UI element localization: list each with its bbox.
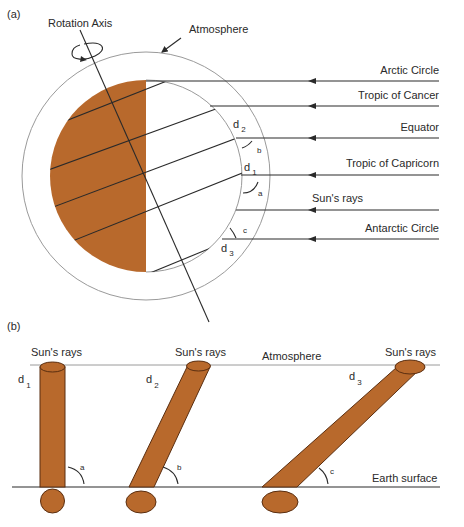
ray-label-suns-rays: Sun's rays: [312, 192, 364, 204]
ray-label-equator: Equator: [400, 121, 439, 133]
d2-label: d2: [233, 118, 246, 134]
beam-1-label: Sun's rays: [31, 346, 83, 358]
d3-label: d3: [221, 242, 234, 258]
beam-1-d: d1: [18, 373, 31, 390]
angle-b-label: b: [257, 146, 262, 155]
sun-angle-diagram: (a) Rotation Axis Atmosphere A: [0, 0, 464, 527]
angle-a-arc: [243, 182, 258, 193]
ray-label-tropic-of-capricorn: Tropic of Capricorn: [346, 157, 439, 169]
atmosphere-label: Atmosphere: [189, 23, 248, 35]
ray-label-tropic-of-cancer: Tropic of Cancer: [358, 89, 439, 101]
ray-label-arctic-circle: Arctic Circle: [380, 64, 439, 76]
angle-b-arc-b: [163, 467, 178, 484]
ray-label-antarctic-circle: Antarctic Circle: [365, 222, 439, 234]
earth-day-outline: [146, 80, 242, 272]
beam-3-d: d3: [349, 370, 362, 387]
angle-c-label-b: c: [330, 467, 334, 476]
angle-c-arc-b: [319, 468, 328, 484]
rotation-axis-label: Rotation Axis: [48, 17, 113, 29]
panel-a: (a) Rotation Axis Atmosphere A: [7, 8, 439, 322]
angle-c-label: c: [243, 226, 247, 235]
angle-a-label-b: a: [80, 463, 85, 472]
footprint-1: [41, 489, 65, 513]
earth-night-side: [40, 70, 146, 290]
panel-a-label: (a): [7, 8, 20, 20]
footprint-3: [262, 491, 298, 513]
beam-3: Sun's rays d3 c: [262, 346, 437, 513]
atmosphere-pointer-icon: [162, 38, 181, 52]
panel-b-label: (b): [7, 320, 20, 332]
beam-2-label: Sun's rays: [175, 346, 227, 358]
footprint-2: [126, 491, 156, 513]
angle-a-label: a: [258, 189, 263, 198]
angle-b-label-b: b: [177, 463, 182, 472]
beam-3-label: Sun's rays: [385, 346, 437, 358]
beam-2-d: d2: [146, 373, 159, 390]
angle-b-arc: [242, 141, 252, 148]
atmosphere-label-b: Atmosphere: [262, 350, 321, 362]
angle-c-arc: [230, 228, 236, 238]
earth-surface-label: Earth surface: [372, 472, 437, 484]
panel-b: (b) Atmosphere Earth surface Sun's rays …: [7, 320, 440, 513]
beam-1: Sun's rays d1 a: [18, 346, 85, 513]
beam-2: Sun's rays d2 b: [126, 346, 227, 513]
